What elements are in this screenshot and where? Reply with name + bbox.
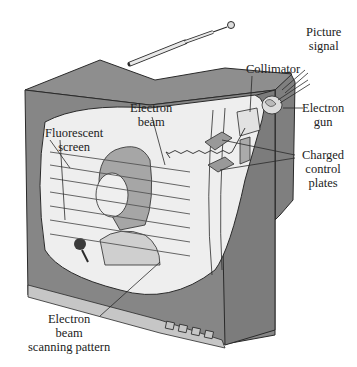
label-scanning-pattern: Electron beam scanning pattern bbox=[28, 312, 110, 354]
charged-plates-line1: Charged bbox=[302, 148, 344, 162]
picture-signal-line2: signal bbox=[306, 39, 341, 53]
label-charged-control-plates: Charged control plates bbox=[302, 148, 344, 190]
label-fluorescent-screen: Fluorescent screen bbox=[45, 126, 103, 154]
electron-beam-line2: beam bbox=[130, 115, 172, 129]
label-electron-gun: Electron gun bbox=[302, 101, 344, 129]
electron-gun-line1: Electron bbox=[302, 101, 344, 115]
label-collimator: Collimator bbox=[246, 62, 300, 76]
label-picture-signal: Picture signal bbox=[306, 25, 341, 53]
fluorescent-screen-line1: Fluorescent bbox=[45, 126, 103, 140]
picture-signal-line1: Picture bbox=[306, 25, 341, 39]
charged-plates-line2: control bbox=[302, 162, 344, 176]
scanning-pattern-line1: Electron bbox=[28, 312, 110, 326]
scanning-pattern-line3: scanning pattern bbox=[28, 340, 110, 354]
fluorescent-screen-line2: screen bbox=[45, 140, 103, 154]
charged-plates-line3: plates bbox=[302, 176, 344, 190]
electron-gun-line2: gun bbox=[302, 115, 344, 129]
label-electron-beam: Electron beam bbox=[130, 101, 172, 129]
scanning-pattern-line2: beam bbox=[28, 326, 110, 340]
antenna bbox=[130, 22, 235, 65]
electron-beam-line1: Electron bbox=[130, 101, 172, 115]
